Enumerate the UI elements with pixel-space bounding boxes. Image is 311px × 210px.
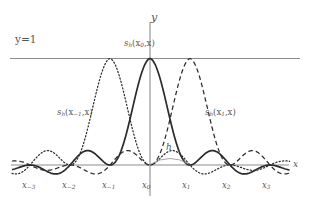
node-label-x-1: x1: [182, 181, 190, 191]
reference-line-label: y=1: [15, 34, 36, 45]
x-axis-title: x: [293, 160, 298, 169]
curve-s-h-x-0: [12, 59, 290, 174]
curve-label-left-arg-sub: −1: [73, 111, 82, 117]
node-label-x-minus3: x−3: [22, 181, 35, 191]
curve-label-left-tail: ,x): [82, 107, 93, 117]
curve-label-right-arg: (x: [213, 107, 221, 117]
spacing-label-h: h: [166, 143, 172, 152]
node-label-subscript: −3: [27, 184, 36, 190]
node-label-subscript: −1: [107, 184, 116, 190]
node-label-subscript: 0: [147, 184, 151, 190]
curve-label-left-arg: (x: [65, 107, 73, 117]
node-label-x-2: x2: [222, 181, 230, 191]
figure-canvas: [0, 0, 311, 210]
node-label-subscript: 2: [227, 184, 231, 190]
sinc-basis-functions-figure: y x y=1 h sh(x0,x) sh(x−1,x) sh(x1,x) x−…: [0, 0, 311, 210]
reference-line-label-text: y=1: [15, 33, 36, 45]
curve-s-h-x-1: [12, 59, 290, 174]
node-label-subscript: 3: [267, 184, 271, 190]
node-label-subscript: −2: [67, 184, 76, 190]
curve-s-h-x-minus-1: [12, 59, 290, 174]
curve-label-center: sh(x0,x): [124, 39, 155, 49]
node-label-x-minus1: x−1: [102, 181, 115, 191]
curve-label-center-arg: (x: [132, 38, 140, 48]
node-label-x-3: x3: [262, 181, 270, 191]
node-label-x-minus2: x−2: [62, 181, 75, 191]
node-label-subscript: 1: [187, 184, 191, 190]
curve-label-right: sh(x1,x): [205, 108, 236, 118]
curve-label-right-tail: ,x): [225, 107, 236, 117]
curve-label-left: sh(x−1,x): [57, 108, 93, 118]
curve-label-center-tail: ,x): [144, 38, 155, 48]
y-axis-title: y: [151, 12, 157, 23]
node-label-x-0: x0: [142, 181, 150, 191]
